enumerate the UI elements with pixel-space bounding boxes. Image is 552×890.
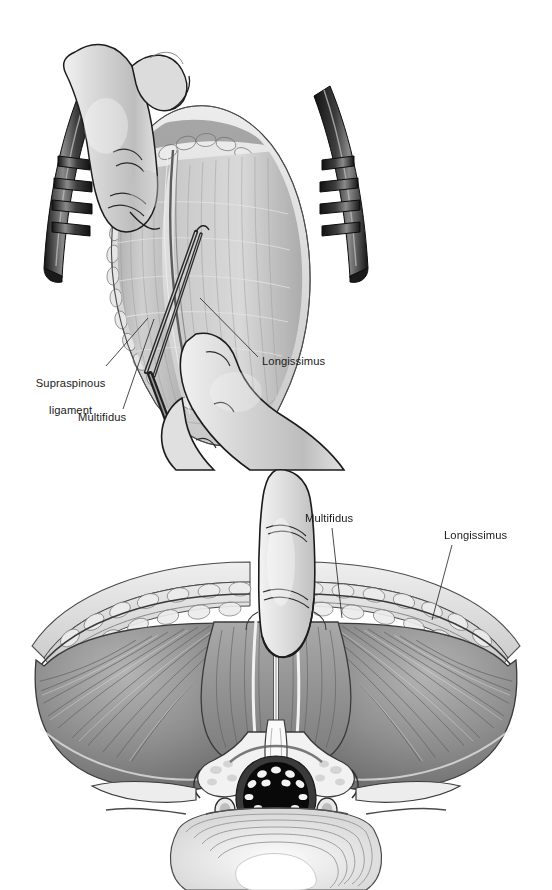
vertebral-body-and-disc (106, 808, 446, 890)
transverse-process-left (92, 782, 196, 803)
right-retractor[interactable] (314, 86, 368, 282)
transverse-process-right (356, 782, 460, 803)
label-longissimus-bottom: Longissimus (444, 529, 507, 543)
anatomical-figure: Supraspinous ligament Multifidus Longiss… (0, 0, 552, 890)
label-multifidus-bottom: Multifidus (305, 512, 353, 526)
label-longissimus-top: Longissimus (262, 355, 325, 369)
panel-axial-cross-section: Multifidus Longissimus (0, 470, 552, 890)
label-multifidus-top: Multifidus (78, 411, 126, 425)
label-line-1: Supraspinous (36, 377, 106, 389)
panel-surgical-field: Supraspinous ligament Multifidus Longiss… (0, 0, 552, 480)
